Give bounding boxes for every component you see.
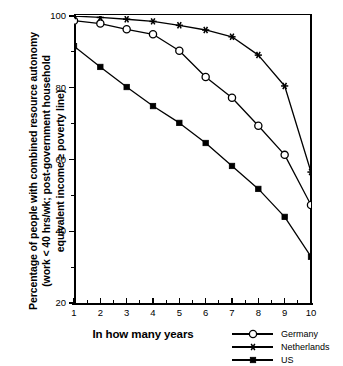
plot-top-spine — [74, 14, 311, 15]
legend-marker-sample — [232, 328, 273, 340]
x-tick-label: 8 — [248, 307, 268, 318]
series-line — [74, 21, 311, 205]
x-tick-label: 7 — [222, 307, 242, 318]
series-netherlands — [74, 16, 311, 175]
x-tick-label: 4 — [143, 307, 163, 318]
data-point-marker-open-circle — [249, 330, 256, 337]
data-point-marker-star — [149, 18, 156, 24]
data-point-marker-filled-square — [229, 163, 234, 168]
chart-legend: GermanyNetherlandsUS — [232, 328, 343, 366]
x-tick-label: 9 — [275, 307, 295, 318]
legend-filled-square-icon — [246, 353, 260, 366]
data-point-marker-star — [249, 344, 256, 350]
data-point-marker-filled-square — [177, 120, 182, 125]
legend-label: Netherlands — [281, 342, 330, 353]
y-tick-label: 20 — [40, 298, 66, 308]
data-point-marker-filled-square — [150, 103, 155, 108]
legend-item-netherlands: Netherlands — [232, 341, 343, 353]
y-tick-label: 60 — [40, 155, 66, 165]
y-tick-label: 100 — [40, 11, 66, 21]
legend-label: Germany — [281, 329, 318, 340]
data-point-marker-filled-square — [250, 357, 255, 362]
data-point-marker-open-circle — [97, 20, 104, 27]
series-line — [74, 16, 311, 172]
data-point-marker-open-circle — [123, 26, 130, 33]
data-point-marker-filled-square — [98, 64, 103, 69]
series-line — [74, 46, 311, 257]
data-point-marker-open-circle — [202, 73, 209, 80]
data-point-marker-filled-square — [308, 254, 311, 259]
data-point-marker-star — [176, 22, 183, 28]
x-tick-label: 6 — [196, 307, 216, 318]
y-axis-title-line-1: Percentage of people with combined resou… — [27, 32, 41, 310]
legend-open-circle-icon — [246, 327, 260, 341]
data-point-marker-open-circle — [255, 122, 262, 129]
data-point-marker-star — [202, 27, 209, 33]
x-tick-label: 3 — [117, 307, 137, 318]
data-point-marker-filled-square — [256, 186, 261, 191]
y-axis-title: Percentage of people with combined resou… — [24, 16, 70, 326]
data-point-marker-open-circle — [281, 151, 288, 158]
legend-star-icon — [246, 340, 260, 354]
data-point-marker-star — [123, 16, 130, 22]
data-point-marker-open-circle — [176, 47, 183, 54]
plot-area — [74, 16, 311, 303]
series-germany — [74, 17, 311, 209]
data-point-marker-star — [307, 169, 311, 175]
x-tick-label: 2 — [90, 307, 110, 318]
y-tick-label: 80 — [40, 83, 66, 93]
x-tick-label: 1 — [64, 307, 84, 318]
data-point-marker-filled-square — [282, 214, 287, 219]
x-tick-label: 10 — [301, 307, 321, 318]
data-point-marker-open-circle — [307, 201, 311, 208]
legend-marker-sample — [232, 354, 273, 366]
legend-label: US — [281, 355, 294, 366]
legend-item-germany: Germany — [232, 328, 343, 340]
y-tick-label: 40 — [40, 226, 66, 236]
chart-figure: Percentage of people with combined resou… — [0, 0, 343, 366]
legend-marker-sample — [232, 341, 273, 353]
x-tick-label: 5 — [169, 307, 189, 318]
legend-item-us: US — [232, 354, 343, 366]
data-point-marker-filled-square — [124, 84, 129, 89]
data-point-marker-open-circle — [228, 94, 235, 101]
data-point-marker-open-circle — [149, 31, 156, 38]
data-point-marker-filled-square — [74, 43, 77, 48]
data-point-marker-filled-square — [203, 140, 208, 145]
x-axis-title: In how many years — [58, 328, 228, 340]
